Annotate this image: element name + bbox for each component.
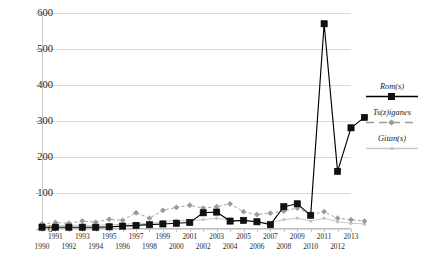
legend-swatch-gitan	[358, 144, 426, 153]
legend-item-tsiganes[interactable]: Ts(z)iganes	[358, 108, 426, 127]
data-point	[52, 224, 58, 230]
series-rom-s	[39, 21, 368, 231]
data-point	[214, 209, 220, 215]
series-line	[42, 24, 364, 227]
data-point	[200, 210, 206, 216]
data-point	[120, 217, 126, 223]
data-point	[173, 220, 179, 226]
data-point	[66, 224, 72, 230]
data-point	[362, 218, 368, 224]
chart-root: 0100200300400500600 19901991199219931994…	[0, 0, 427, 263]
data-point	[321, 21, 327, 27]
data-point	[254, 219, 260, 225]
legend-swatch-tsiganes	[358, 118, 426, 127]
data-point	[227, 218, 233, 224]
series-gitan-s	[40, 217, 366, 228]
data-point	[215, 217, 218, 220]
data-point	[173, 205, 179, 211]
data-point	[348, 125, 354, 131]
data-point	[254, 212, 260, 218]
data-point	[39, 224, 45, 230]
data-point	[133, 210, 139, 216]
data-point	[160, 221, 166, 227]
data-point	[334, 168, 340, 174]
legend-item-rom[interactable]: Rom(s)	[358, 82, 426, 101]
data-point	[79, 218, 85, 224]
data-point	[281, 204, 287, 210]
data-point	[120, 223, 126, 229]
chart-legend: Rom(s) Ts(z)iganes Gitan(s)	[358, 82, 426, 160]
data-point	[282, 218, 285, 221]
data-point	[296, 217, 299, 220]
legend-swatch-rom	[358, 92, 426, 101]
data-point	[227, 201, 233, 207]
data-point	[294, 201, 300, 207]
data-point	[79, 224, 85, 230]
data-point	[348, 217, 354, 223]
data-point	[267, 222, 273, 228]
data-point	[240, 217, 246, 223]
legend-item-gitan[interactable]: Gitan(s)	[358, 134, 426, 153]
data-point	[160, 207, 166, 213]
data-point	[187, 219, 193, 225]
data-point	[202, 218, 205, 221]
data-point	[308, 212, 314, 218]
data-point	[241, 209, 247, 215]
legend-label-tsiganes: Ts(z)iganes	[358, 108, 426, 117]
data-point	[321, 209, 327, 215]
data-point	[267, 210, 273, 216]
data-point	[147, 215, 153, 221]
data-point	[187, 202, 193, 208]
data-point	[133, 222, 139, 228]
data-point	[106, 224, 112, 230]
data-point	[322, 217, 325, 220]
legend-label-rom: Rom(s)	[358, 82, 426, 91]
data-point	[93, 224, 99, 230]
data-point	[309, 219, 312, 222]
legend-label-gitan: Gitan(s)	[358, 134, 426, 143]
data-point	[106, 216, 112, 222]
data-point	[335, 215, 341, 221]
data-point	[146, 222, 152, 228]
